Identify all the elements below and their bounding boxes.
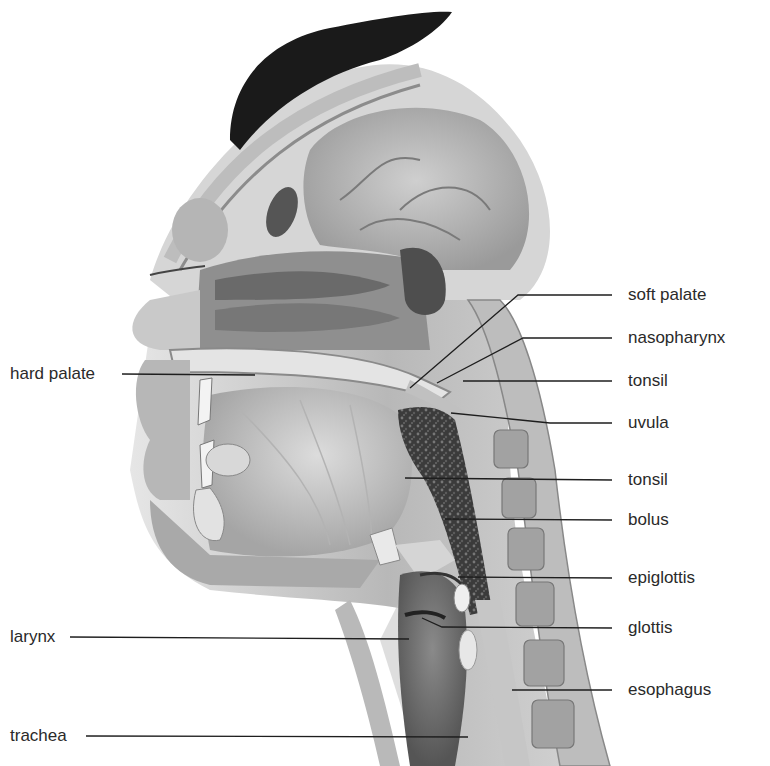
label-nasopharynx: nasopharynx bbox=[628, 328, 725, 348]
label-tonsil-upper: tonsil bbox=[628, 371, 668, 391]
label-bolus: bolus bbox=[628, 510, 669, 530]
label-tonsil-lower: tonsil bbox=[628, 470, 668, 490]
brain bbox=[303, 108, 529, 270]
label-uvula: uvula bbox=[628, 413, 669, 433]
label-trachea: trachea bbox=[10, 726, 67, 746]
label-hard-palate: hard palate bbox=[10, 364, 95, 384]
label-glottis: glottis bbox=[628, 618, 672, 638]
label-larynx: larynx bbox=[10, 627, 55, 647]
label-epiglottis: epiglottis bbox=[628, 568, 695, 588]
label-esophagus: esophagus bbox=[628, 680, 711, 700]
upper-tooth bbox=[198, 378, 212, 425]
label-soft-palate: soft palate bbox=[628, 285, 706, 305]
